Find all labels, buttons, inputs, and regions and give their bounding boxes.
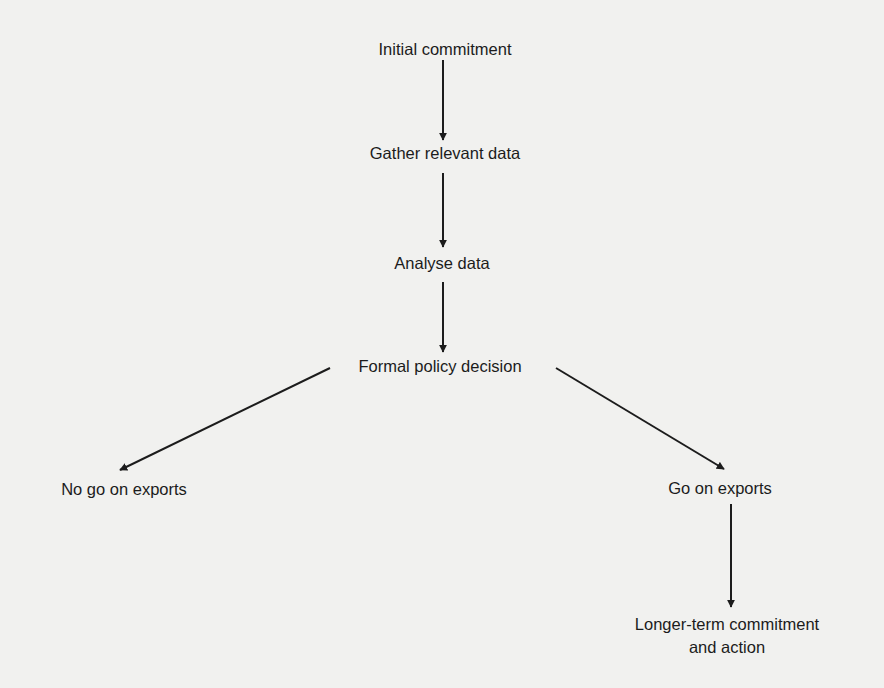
flow-arrows — [0, 0, 884, 688]
node-gather-data: Gather relevant data — [370, 142, 520, 164]
node-go-exports: Go on exports — [668, 477, 772, 499]
node-policy-decision: Formal policy decision — [358, 355, 521, 377]
arrow-decision-to-no-go — [120, 368, 330, 470]
node-initial-commitment: Initial commitment — [379, 38, 512, 60]
node-no-go-exports: No go on exports — [61, 478, 187, 500]
node-analyse-data: Analyse data — [394, 252, 489, 274]
node-longer-term-line1: Longer-term commitment — [635, 613, 819, 635]
node-longer-term-line2: and action — [689, 636, 765, 658]
arrow-decision-to-go — [556, 368, 724, 469]
